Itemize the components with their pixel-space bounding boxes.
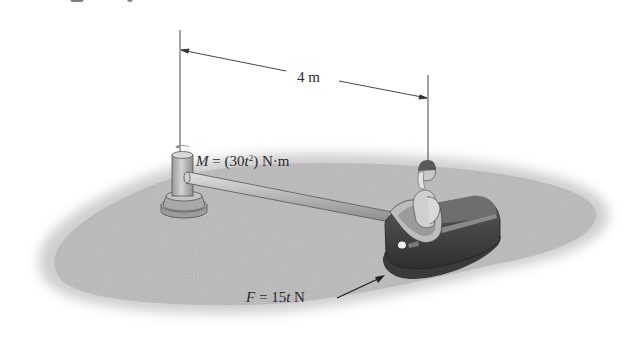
figure-stage: 4 m M = (30t2) N·m: [0, 0, 625, 344]
cropped-text-fragment: [70, 0, 84, 2]
force-label: F = 15t N: [245, 289, 305, 305]
dimension-label: 4 m: [297, 69, 320, 85]
moment-label: M = (30t2) N·m: [195, 153, 290, 170]
diagram-svg: 4 m M = (30t2) N·m: [0, 0, 625, 344]
ground-surface: [39, 153, 609, 313]
dimension-annotation: [180, 30, 428, 168]
moment-symbol: M: [195, 153, 210, 169]
dimension-line-right: [339, 81, 427, 98]
headlight-icon: [398, 242, 406, 249]
arrowhead-left-icon: [181, 49, 189, 53]
force-symbol: F: [245, 289, 256, 305]
arrowhead-right-icon: [419, 95, 427, 99]
dimension-line-left: [181, 50, 286, 71]
